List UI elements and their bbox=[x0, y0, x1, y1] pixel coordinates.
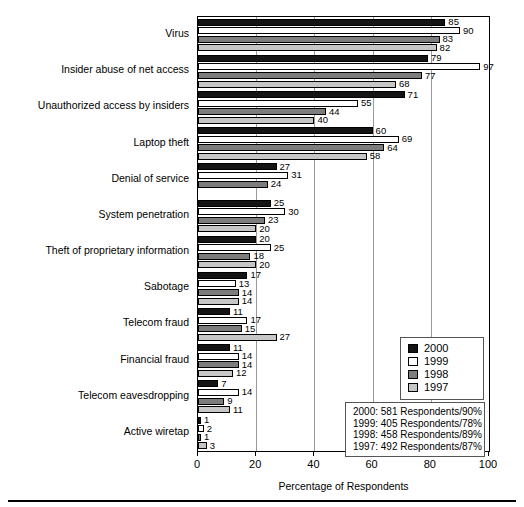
bar-1997 bbox=[198, 442, 207, 449]
bar-2000 bbox=[198, 308, 230, 315]
bar-1998 bbox=[198, 108, 326, 115]
bar-1999 bbox=[198, 280, 236, 287]
category-label: Financial fraud bbox=[0, 354, 193, 365]
bar-1998 bbox=[198, 325, 242, 332]
bar-value-label: 11 bbox=[233, 405, 243, 415]
respondents-line: 1998: 458 Respondents/89% bbox=[353, 429, 478, 441]
legend-swatch-icon bbox=[408, 383, 418, 392]
x-tick-label: 100 bbox=[479, 458, 497, 470]
category-label: Sabotage bbox=[0, 281, 193, 292]
bar-value-label: 82 bbox=[440, 43, 451, 53]
bar-value-label: 11 bbox=[233, 307, 243, 317]
x-tick-label: 80 bbox=[424, 458, 436, 470]
x-tick-40 bbox=[313, 452, 314, 456]
bar-1997 bbox=[198, 406, 230, 413]
bar-1999 bbox=[198, 317, 247, 324]
bar-1997 bbox=[198, 44, 437, 51]
legend-swatch-icon bbox=[408, 357, 418, 366]
bar-value-label: 12 bbox=[236, 368, 247, 378]
bar-2000 bbox=[198, 19, 445, 26]
bar-2000 bbox=[198, 380, 218, 387]
category-label: Active wiretap bbox=[0, 426, 193, 437]
bar-value-label: 27 bbox=[280, 332, 291, 342]
category-label: Laptop theft bbox=[0, 137, 193, 148]
bar-value-label: 64 bbox=[387, 143, 398, 153]
bar-1999 bbox=[198, 136, 399, 143]
category-label: Virus bbox=[0, 28, 193, 39]
bar-1998 bbox=[198, 72, 422, 79]
bar-value-label: 90 bbox=[463, 26, 474, 36]
bar-value-label: 71 bbox=[408, 90, 419, 100]
bar-value-label: 7 bbox=[221, 379, 226, 389]
bar-2000 bbox=[198, 200, 271, 207]
bar-2000 bbox=[198, 127, 373, 134]
bar-value-label: 31 bbox=[291, 170, 302, 180]
bar-2000 bbox=[198, 344, 230, 351]
category-label: Theft of proprietary information bbox=[0, 245, 193, 256]
respondents-line: 2000: 581 Respondents/90% bbox=[353, 406, 478, 418]
bar-value-label: 17 bbox=[250, 270, 261, 280]
category-label: Insider abuse of net access bbox=[0, 64, 193, 75]
bar-value-label: 58 bbox=[370, 151, 381, 161]
bar-value-label: 20 bbox=[259, 234, 270, 244]
bar-1997 bbox=[198, 334, 277, 341]
bar-2000 bbox=[198, 163, 277, 170]
bar-1999 bbox=[198, 389, 239, 396]
legend-label: 1999 bbox=[424, 356, 448, 367]
bar-1997 bbox=[198, 117, 314, 124]
category-label: System penetration bbox=[0, 209, 193, 220]
category-label: Unauthorized access by insiders bbox=[0, 100, 193, 111]
legend-label: 1997 bbox=[424, 382, 448, 393]
chart-figure: VirusInsider abuse of net accessUnauthor… bbox=[0, 0, 524, 507]
legend-label: 1998 bbox=[424, 369, 448, 380]
bar-1999 bbox=[198, 353, 239, 360]
bar-1997 bbox=[198, 81, 396, 88]
bar-value-label: 20 bbox=[259, 260, 270, 270]
bar-value-label: 25 bbox=[274, 198, 285, 208]
bar-value-label: 27 bbox=[280, 162, 291, 172]
bar-value-label: 79 bbox=[431, 53, 442, 63]
bar-1997 bbox=[198, 225, 256, 232]
legend-item-1999: 1999 bbox=[408, 355, 477, 368]
category-label: Denial of service bbox=[0, 173, 193, 184]
category-axis-labels: VirusInsider abuse of net accessUnauthor… bbox=[0, 16, 193, 452]
bottom-divider bbox=[8, 500, 516, 502]
bar-2000 bbox=[198, 91, 405, 98]
bar-2000 bbox=[198, 55, 428, 62]
bar-value-label: 44 bbox=[329, 107, 340, 117]
category-label: Telecom eavesdropping bbox=[0, 390, 193, 401]
bar-1998 bbox=[198, 253, 250, 260]
bar-1998 bbox=[198, 289, 239, 296]
respondents-note: 2000: 581 Respondents/90%1999: 405 Respo… bbox=[345, 402, 485, 457]
x-axis-title: Percentage of Respondents bbox=[197, 480, 490, 492]
legend-item-1997: 1997 bbox=[408, 381, 477, 394]
bar-1999 bbox=[198, 425, 204, 432]
bar-value-label: 77 bbox=[425, 71, 436, 81]
bar-value-label: 1 bbox=[204, 432, 209, 442]
bar-1998 bbox=[198, 36, 440, 43]
bar-value-label: 97 bbox=[483, 62, 494, 72]
bar-1997 bbox=[198, 298, 239, 305]
x-tick-label: 60 bbox=[365, 458, 377, 470]
bar-value-label: 30 bbox=[288, 207, 299, 217]
bar-1997 bbox=[198, 153, 367, 160]
bar-value-label: 9 bbox=[227, 396, 232, 406]
x-tick-label: 0 bbox=[194, 458, 200, 470]
x-tick-label: 20 bbox=[249, 458, 261, 470]
bar-1998 bbox=[198, 217, 265, 224]
bar-1997 bbox=[198, 370, 233, 377]
bar-value-label: 69 bbox=[402, 134, 413, 144]
bar-1998 bbox=[198, 144, 384, 151]
bar-value-label: 55 bbox=[361, 98, 372, 108]
bar-value-label: 40 bbox=[317, 115, 328, 125]
bar-value-label: 24 bbox=[271, 179, 282, 189]
x-tick-label: 40 bbox=[307, 458, 319, 470]
bar-value-label: 15 bbox=[245, 324, 256, 334]
bar-1998 bbox=[198, 398, 224, 405]
x-tick-100 bbox=[488, 452, 489, 456]
bar-value-label: 60 bbox=[376, 126, 387, 136]
bar-value-label: 14 bbox=[242, 387, 253, 397]
legend: 2000199919981997 bbox=[400, 337, 484, 400]
bar-2000 bbox=[198, 417, 201, 424]
bar-value-label: 3 bbox=[210, 441, 215, 451]
